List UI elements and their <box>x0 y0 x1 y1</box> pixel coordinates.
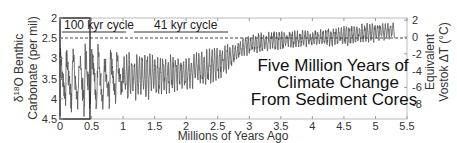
left-y-tick-label: 2 <box>51 12 57 24</box>
chart-title-line3: From Sediment Cores <box>251 90 417 109</box>
left-y-tick-label: 4.5 <box>42 113 57 125</box>
left-y-tick-label: 4 <box>51 93 57 105</box>
left-y-tick-label: 2.5 <box>42 32 57 44</box>
left-y-axis-label-line2: Carbonate (per mil) <box>26 16 40 119</box>
x-tick-label: 5.5 <box>399 120 414 132</box>
right-y-axis-label-line1: Equivalent <box>423 33 437 90</box>
right-y-tick-label: -2 <box>412 48 422 60</box>
x-tick-label: 5 <box>372 120 378 132</box>
annotation-100kyr: 100 kyr cycle <box>64 18 134 32</box>
x-tick-label: 4 <box>309 120 315 132</box>
x-tick-label: 0 <box>57 120 63 132</box>
x-axis-label: Millions of Years Ago <box>178 129 289 143</box>
left-y-tick-label: 3.5 <box>42 73 57 85</box>
left-y-tick-label: 3 <box>51 52 57 64</box>
left-y-axis-label-line1: δ18O Benthic <box>12 34 27 102</box>
right-y-tick-label: 2 <box>412 14 418 26</box>
right-y-tick-label: 0 <box>412 31 418 43</box>
x-tick-label: 4.5 <box>336 120 351 132</box>
x-tick-label: 1 <box>120 120 126 132</box>
x-tick-label: 0.5 <box>84 120 99 132</box>
right-y-tick-label: -4 <box>412 65 422 77</box>
right-y-axis-label-line2: Vostok ΔT (°C) <box>437 22 451 101</box>
climate-chart: 100 kyr cycle 41 kyr cycle 00.511.522.53… <box>0 0 457 143</box>
x-tick-label: 1.5 <box>147 120 162 132</box>
